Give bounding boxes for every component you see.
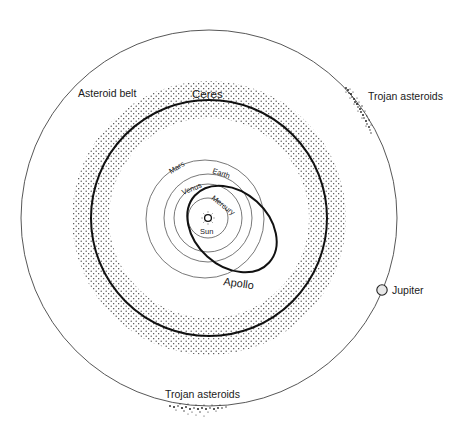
sun-label: Sun (200, 227, 213, 236)
jupiter-label: Jupiter (392, 284, 424, 296)
asteroid-belt-ring (0, 0, 466, 439)
trojan-asteroids-bottom-label: Trojan asteroids (165, 388, 240, 400)
jupiter-planet-icon (377, 285, 387, 295)
trojan-asteroids-top-label: Trojan asteroids (368, 90, 443, 102)
solar-system-diagram: Asteroid belt Ceres Trojan asteroids Tro… (0, 0, 466, 439)
ceres-label: Ceres (192, 88, 223, 100)
asteroid-belt-label: Asteroid belt (78, 87, 136, 99)
